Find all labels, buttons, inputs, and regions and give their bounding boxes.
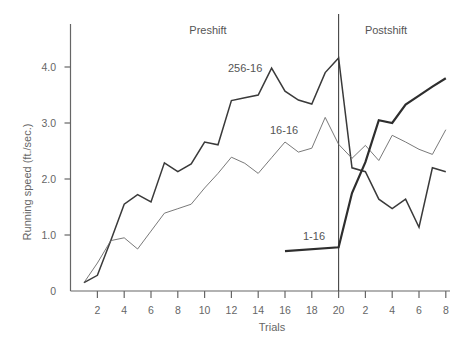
x-tick-label: 4 [389, 304, 395, 316]
labels: Preshift Postshift Trials Running speed … [21, 24, 407, 333]
preshift-label: Preshift [189, 24, 226, 36]
x-tick-label: 10 [199, 304, 211, 316]
x-tick-label: 2 [362, 304, 368, 316]
series-label-16-16: 16-16 [270, 124, 298, 136]
y-axis-title: Running speed (ft./sec.) [21, 124, 33, 241]
series-label-256-16: 256-16 [228, 62, 262, 74]
running-speed-chart: 01.02.03.04.024681012141618202468 Preshi… [0, 0, 475, 347]
y-tick-label: 3.0 [41, 117, 56, 129]
x-axis-title: Trials [259, 321, 286, 333]
x-tick-label: 8 [443, 304, 449, 316]
x-tick-label: 20 [333, 304, 345, 316]
y-tick-label: 0 [50, 285, 56, 297]
x-tick-label: 6 [416, 304, 422, 316]
x-tick-label: 14 [252, 304, 264, 316]
x-tick-label: 18 [306, 304, 318, 316]
series-line-256-16 [84, 58, 446, 283]
y-tick-label: 1.0 [41, 229, 56, 241]
series-label-1-16: 1-16 [303, 230, 325, 242]
x-tick-label: 16 [279, 304, 291, 316]
y-tick-label: 4.0 [41, 61, 56, 73]
x-tick-label: 6 [148, 304, 154, 316]
axes: 01.02.03.04.024681012141618202468 [41, 14, 450, 316]
y-tick-label: 2.0 [41, 173, 56, 185]
x-tick-label: 4 [121, 304, 127, 316]
postshift-label: Postshift [365, 24, 407, 36]
series-line-1-16 [285, 78, 446, 251]
x-tick-label: 2 [94, 304, 100, 316]
series-line-16-16 [84, 117, 446, 282]
series-lines [84, 58, 446, 283]
x-tick-label: 12 [226, 304, 238, 316]
x-tick-label: 8 [175, 304, 181, 316]
